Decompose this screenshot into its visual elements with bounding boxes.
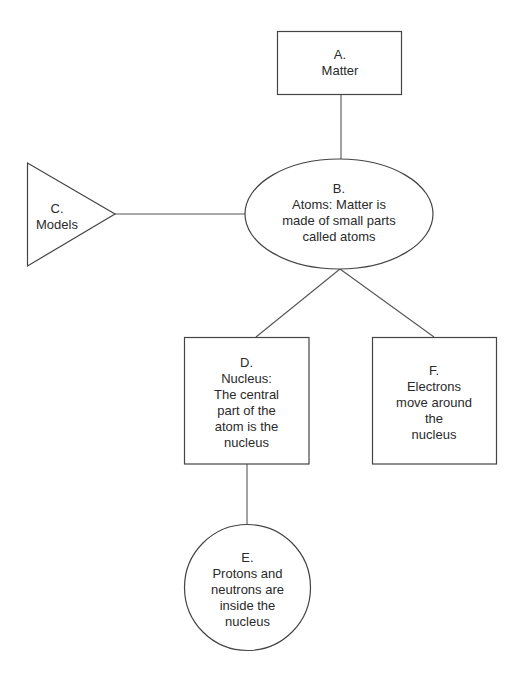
node-b-line-2: made of small parts: [282, 213, 395, 229]
node-e-letter: E.: [241, 550, 253, 566]
node-c-letter: C.: [51, 201, 64, 217]
node-e-line-3: inside the: [220, 598, 276, 614]
node-b-label: B. Atoms: Matter is made of small parts …: [245, 180, 433, 246]
node-b-line-1: Atoms: Matter is: [292, 197, 386, 213]
node-e-line-4: nucleus: [225, 614, 270, 630]
node-a-letter: A.: [334, 47, 346, 63]
node-f-line-2: move around: [396, 395, 472, 411]
node-f-letter: F.: [429, 363, 439, 379]
node-b-line-3: called atoms: [303, 229, 376, 245]
node-d-line-3: part of the: [217, 403, 276, 419]
node-a-text: Matter: [322, 63, 359, 79]
edge-b-d: [256, 269, 340, 337]
node-d-line-1: Nucleus:: [221, 371, 272, 387]
node-f-line-4: nucleus: [412, 427, 457, 443]
node-d-line-2: The central: [214, 387, 279, 403]
node-d-letter: D.: [240, 355, 253, 371]
node-e-label: E. Protons and neutrons are inside the n…: [185, 549, 310, 631]
node-f-line-1: Electrons: [407, 379, 461, 395]
node-e-line-2: neutrons are: [211, 582, 284, 598]
node-c-text: Models: [36, 217, 78, 233]
node-d-label: D. Nucleus: The central part of the atom…: [184, 354, 309, 452]
node-b-letter: B.: [333, 181, 345, 197]
node-f-label: F. Electrons move around the nucleus: [372, 362, 496, 444]
node-a-label: A. Matter: [278, 46, 402, 80]
node-d-line-5: nucleus: [224, 435, 269, 451]
edge-b-f: [340, 269, 434, 337]
node-d-line-4: atom is the: [215, 419, 279, 435]
node-f-line-3: the: [425, 411, 443, 427]
node-e-line-1: Protons and: [212, 566, 282, 582]
node-c-label: C. Models: [32, 201, 82, 233]
